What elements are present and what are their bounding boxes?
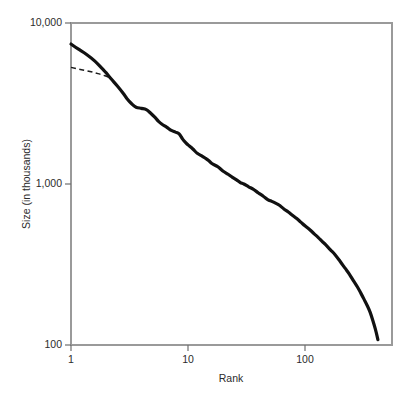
rank-size-log-log-chart: 10,000 1,000 100 1 10 100 Rank Size (in …: [0, 0, 414, 394]
y-axis-title: Size (in thousands): [20, 139, 32, 229]
y-tick-label-10000: 10,000: [30, 16, 62, 28]
y-tick-label-100: 100: [44, 338, 62, 350]
x-axis-title: Rank: [219, 372, 244, 384]
y-tick-label-1000: 1,000: [36, 177, 62, 189]
chart-figure: 10,000 1,000 100 1 10 100 Rank Size (in …: [0, 0, 414, 394]
x-tick-label-1: 1: [68, 353, 74, 365]
x-tick-label-100: 100: [296, 353, 314, 365]
x-tick-label-10: 10: [182, 353, 194, 365]
plot-frame: [71, 23, 392, 345]
